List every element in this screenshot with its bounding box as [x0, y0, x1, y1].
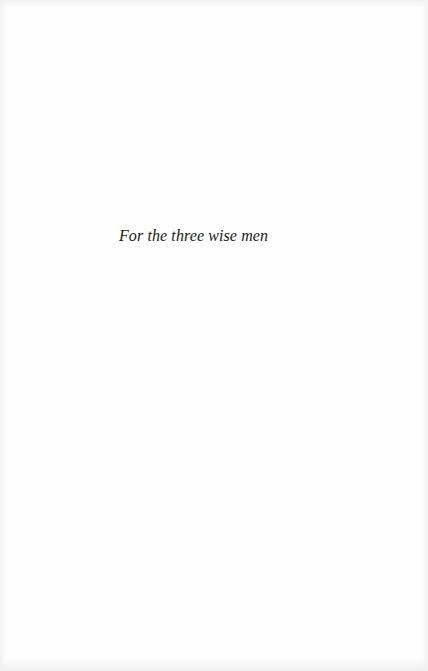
dedication-text: For the three wise men — [119, 226, 268, 246]
scan-edge-top — [0, 0, 428, 8]
scan-edge-bottom — [0, 657, 428, 671]
book-page: For the three wise men — [0, 0, 428, 671]
scan-edge-left — [0, 0, 6, 671]
scan-edge-right — [422, 0, 428, 671]
